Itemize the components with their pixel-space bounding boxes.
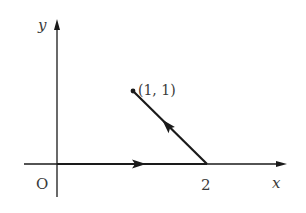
segment-origin-to-2 (57, 160, 207, 169)
y-axis (54, 19, 60, 197)
x-axis-label: x (272, 174, 281, 192)
x-tick-label-2: 2 (201, 176, 211, 194)
y-axis-label: y (37, 16, 47, 34)
x-axis-arrowhead-icon (276, 161, 287, 167)
point-1-1-dot (131, 89, 136, 94)
point-1-1-label: (1, 1) (138, 82, 176, 98)
origin-label: O (36, 175, 48, 193)
y-axis-arrowhead-icon (54, 19, 60, 30)
segment-2-to-1-1 (131, 89, 207, 164)
coordinate-diagram: y x O 2 (1, 1) (0, 0, 306, 213)
